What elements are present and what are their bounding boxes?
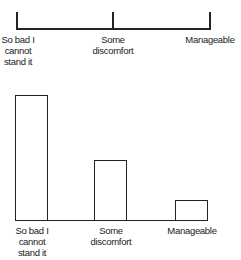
scale-label-manageable: Manageable: [180, 34, 240, 45]
bar-chart-baseline: [15, 220, 208, 222]
scale-axis-line: [16, 28, 211, 30]
scale-label-so-bad: So bad I cannot stand it: [0, 34, 36, 67]
scale-label-some-discomfort: Some discomfort: [86, 34, 140, 56]
bar-label-some-discomfort: Some discomfort: [84, 225, 138, 247]
scale-tick-right: [209, 12, 211, 29]
bar-some-discomfort: [94, 160, 127, 221]
bar-manageable: [175, 200, 208, 221]
bar-label-manageable: Manageable: [162, 225, 222, 236]
scale-tick-middle: [112, 12, 114, 29]
bar-so-bad: [15, 95, 48, 221]
bar-label-so-bad: So bad I cannot stand it: [12, 225, 52, 258]
scale-tick-left: [16, 12, 18, 29]
